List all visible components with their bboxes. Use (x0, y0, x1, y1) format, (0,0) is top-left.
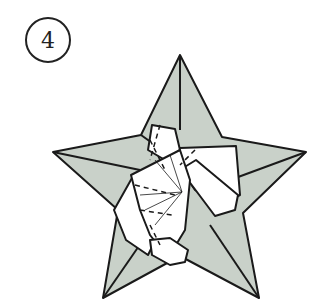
origami-star-diagram (0, 0, 333, 300)
